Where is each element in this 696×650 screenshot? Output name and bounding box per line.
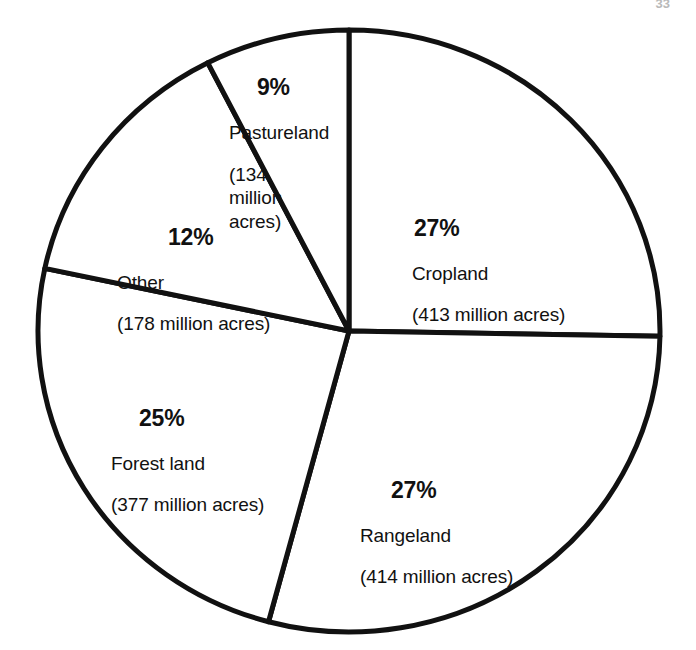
- pie-chart-graphic: [0, 0, 696, 650]
- slice-amount-other: (178 million acres): [117, 313, 270, 335]
- slice-name-other: Other: [117, 272, 270, 294]
- slice-amount-rangeland: (414 million acres): [360, 566, 513, 588]
- slice-percent-rangeland: 27%: [391, 477, 513, 504]
- slice-percent-cropland: 27%: [414, 215, 565, 242]
- slice-label-rangeland: 27% Rangeland (414 million acres): [360, 458, 513, 607]
- slice-name-rangeland: Rangeland: [360, 525, 513, 547]
- slice-label-forest-land: 25% Forest land (377 million acres): [111, 386, 264, 535]
- slice-label-pastureland: 9% Pastureland (134 million acres): [229, 55, 329, 252]
- slice-name-cropland: Cropland: [412, 263, 565, 285]
- slice-percent-pastureland: 9%: [257, 74, 329, 101]
- slice-name-forest-land: Forest land: [111, 453, 264, 475]
- slice-name-pastureland: Pastureland: [229, 122, 329, 144]
- slice-amount-forest-land: (377 million acres): [111, 494, 264, 516]
- slice-amount-cropland: (413 million acres): [412, 304, 565, 326]
- slice-percent-forest-land: 25%: [139, 405, 264, 432]
- pie-chart: 33 27% Cropland (413 million acres) 27% …: [0, 0, 696, 650]
- slice-label-cropland: 27% Cropland (413 million acres): [412, 196, 565, 345]
- slice-amount-pastureland: (134 million acres): [229, 163, 329, 233]
